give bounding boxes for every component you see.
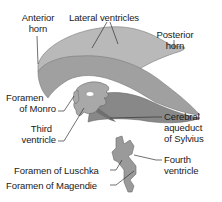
label-line: Foramen (6, 92, 56, 103)
label-lateral-ventricles: Lateral ventricles (69, 12, 139, 23)
label-line: horn (150, 40, 200, 51)
label-line: aqueduct (164, 122, 204, 133)
label-line: Anterior (14, 12, 62, 23)
label-third-ventricle: Third ventricle (6, 123, 56, 145)
leader-fourth-ventricle (134, 155, 162, 160)
leader-anterior-horn (37, 36, 38, 64)
label-foramen-of-luschka: Foramen of Luschka (14, 165, 99, 176)
label-line: horn (14, 23, 62, 34)
label-line: Fourth (164, 154, 198, 165)
leader-foramen-monro (58, 96, 74, 111)
label-posterior-horn: Posterior horn (150, 29, 200, 51)
label-cerebral-aqueduct: Cerebral aqueduct of Sylvius (164, 111, 204, 144)
label-line: ventricle (164, 165, 198, 176)
label-anterior-horn: Anterior horn (14, 12, 62, 34)
interthalamic-adhesion (86, 92, 94, 97)
fourth-ventricle-shape (112, 136, 136, 192)
label-line: of Monro (6, 103, 56, 114)
label-line: Cerebral (164, 111, 204, 122)
label-line: of Sylvius (164, 133, 204, 144)
label-line: Third (6, 123, 56, 134)
label-line: Posterior (150, 29, 200, 40)
label-foramen-of-magendie: Foramen of Magendie (6, 180, 97, 191)
label-foramen-of-monro: Foramen of Monro (6, 92, 56, 114)
label-fourth-ventricle: Fourth ventricle (164, 154, 198, 176)
label-line: ventricle (6, 134, 56, 145)
